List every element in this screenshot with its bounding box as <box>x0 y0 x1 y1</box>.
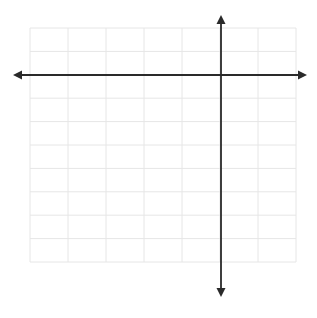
coordinate-plane <box>0 0 317 318</box>
axes <box>13 15 307 297</box>
x-axis-right-arrow-icon <box>298 71 307 80</box>
y-axis-down-arrow-icon <box>217 288 226 297</box>
grid-lines <box>30 28 296 262</box>
y-axis-up-arrow-icon <box>217 15 226 24</box>
x-axis-left-arrow-icon <box>13 71 22 80</box>
